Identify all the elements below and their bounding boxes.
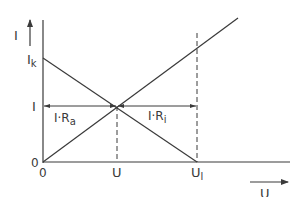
u-tick-label: U <box>112 165 122 180</box>
origin-y-label: 0 <box>31 156 39 170</box>
iri-annotation: I·Ri <box>148 109 166 125</box>
x-axis-label: U <box>260 186 270 197</box>
ul-tick-label: Ul <box>191 165 203 182</box>
y-axis-label: I <box>14 28 18 43</box>
iv-diagram: I Ik I 0 0 U Ul U I·Ra I·Ri <box>0 0 304 197</box>
load-line <box>43 18 238 162</box>
i-label: I <box>32 99 36 114</box>
origin-x-label: 0 <box>39 166 47 180</box>
ik-label: Ik <box>27 52 37 69</box>
source-line <box>43 58 197 162</box>
ira-annotation: I·Ra <box>54 111 76 127</box>
